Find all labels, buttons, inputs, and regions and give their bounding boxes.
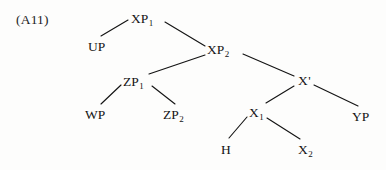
tree-node-up: UP <box>88 40 105 54</box>
node-subscript: 1 <box>149 18 154 28</box>
node-subscript: 1 <box>259 112 264 122</box>
node-subscript: 2 <box>179 114 184 124</box>
node-label-base: XP <box>207 42 224 57</box>
branch-xp2-zp1 <box>149 55 205 74</box>
tree-node-xp1: XP1 <box>131 12 153 26</box>
tree-node-wp: WP <box>85 108 105 122</box>
node-label-base: X <box>298 73 308 88</box>
node-label-base: YP <box>352 109 369 124</box>
node-prime-mark: ' <box>308 73 311 88</box>
branch-xbar-yp <box>314 85 358 106</box>
branch-zp1-zp2 <box>152 86 175 104</box>
branch-x1-x2 <box>267 118 300 139</box>
node-subscript: 2 <box>308 149 313 159</box>
tree-branches <box>0 0 386 170</box>
node-label-base: ZP <box>163 107 179 122</box>
tree-node-x1: X1 <box>249 106 263 120</box>
node-subscript: 2 <box>225 49 230 59</box>
tree-node-yp: YP <box>352 110 369 124</box>
branch-x1-h <box>229 117 247 138</box>
tree-node-zp2: ZP2 <box>163 108 184 122</box>
node-label-base: WP <box>85 107 105 122</box>
branch-xp1-up <box>101 20 128 36</box>
node-label-base: X <box>249 105 259 120</box>
node-subscript: 1 <box>139 81 144 91</box>
branch-xbar-x1 <box>266 86 294 103</box>
figure-canvas: (A11) XP1UPXP2ZP1X'WPZP2X1YPHX2 <box>0 0 386 170</box>
node-label-base: H <box>221 142 231 157</box>
tree-node-xp2: XP2 <box>207 43 229 57</box>
node-label-base: ZP <box>123 74 139 89</box>
tree-node-zp1: ZP1 <box>123 75 144 89</box>
node-label-base: UP <box>88 39 105 54</box>
tree-node-h: H <box>221 143 231 157</box>
branch-xp2-xbar <box>243 54 294 76</box>
branch-xp1-xp2 <box>165 22 205 46</box>
branch-zp1-wp <box>101 85 121 104</box>
tree-node-x2: X2 <box>298 143 312 157</box>
tree-node-xbar: X' <box>298 74 310 88</box>
node-label-base: X <box>298 142 308 157</box>
node-label-base: XP <box>131 11 148 26</box>
